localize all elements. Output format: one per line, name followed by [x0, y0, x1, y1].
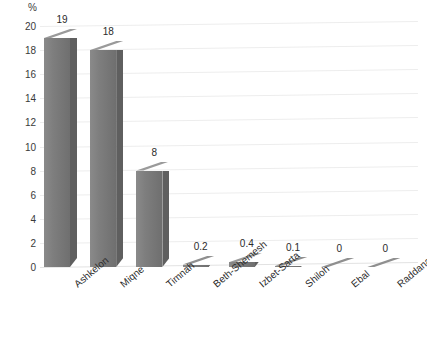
gridline	[40, 21, 418, 27]
bar-side-face	[70, 38, 77, 267]
y-axis-tick-label: 16	[0, 69, 36, 80]
bar-value-label: 0.2	[181, 241, 221, 252]
bar-value-label: 18	[88, 26, 128, 37]
x-axis-tick-label: Ashkelon	[72, 281, 79, 289]
y-axis-tick-label: 4	[0, 213, 36, 224]
y-axis-tick-label: 12	[0, 117, 36, 128]
bar-miqne[interactable]	[90, 41, 123, 267]
bar-side-face	[301, 266, 308, 267]
y-axis-tick-label: 2	[0, 237, 36, 248]
bar-chart: % 02468101214161820 191880.20.40.100 Ash…	[0, 0, 427, 342]
bar-ashkelon[interactable]	[44, 29, 77, 267]
bar-side-face	[116, 50, 123, 267]
y-axis-tick-label: 20	[0, 21, 36, 32]
y-axis-tick-label: 18	[0, 45, 36, 56]
x-axis-tick-label: Miqne	[118, 281, 125, 289]
y-axis-tick-label: 14	[0, 93, 36, 104]
bar-side-face	[162, 171, 169, 267]
bar-raddana[interactable]	[367, 258, 400, 267]
bar-top-face	[136, 162, 169, 171]
bar-top-face	[90, 41, 123, 50]
x-axis-tick-label: Raddana	[395, 281, 402, 289]
bar-front-face	[44, 38, 70, 267]
bar-front-face	[136, 171, 162, 267]
y-axis-tick-label: 10	[0, 141, 36, 152]
y-axis-tick-label: 8	[0, 165, 36, 176]
x-axis-tick-label: Beth-Shemesh	[211, 281, 218, 289]
y-axis-tick-label: 0	[0, 262, 36, 273]
x-axis-tick-label: Shiloh	[303, 281, 310, 289]
x-axis-tick-label: Izbet-Sarta	[257, 281, 264, 289]
bar-side-face	[209, 265, 216, 267]
bar-top-face	[367, 258, 400, 267]
bar-value-label: 0	[365, 243, 405, 254]
bar-value-label: 19	[42, 14, 82, 25]
plot-area: 191880.20.40.100	[0, 0, 427, 342]
x-axis-tick-label: Ebal	[349, 281, 356, 289]
x-axis-tick-label: Timnah	[164, 281, 171, 289]
bar-top-face	[44, 29, 77, 38]
bar-value-label: 8	[134, 147, 174, 158]
bar-front-face	[90, 50, 116, 267]
y-axis-unit-label: %	[28, 2, 37, 13]
bar-side-face	[255, 262, 262, 267]
y-axis-tick-label: 6	[0, 189, 36, 200]
bar-value-label: 0	[319, 243, 359, 254]
bar-timnah[interactable]	[136, 162, 169, 267]
